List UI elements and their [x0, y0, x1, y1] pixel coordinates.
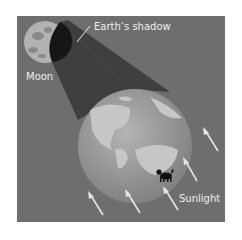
earth-shadow-label: Earth’s shadow	[94, 21, 171, 33]
sunlight-label: Sunlight	[179, 193, 220, 205]
moon-label: Moon	[26, 71, 53, 83]
earth	[78, 89, 192, 203]
moon	[24, 21, 72, 63]
